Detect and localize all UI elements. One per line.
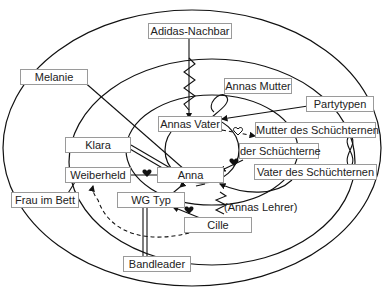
heart-icon — [184, 207, 193, 214]
diagram-lines — [0, 0, 385, 292]
node-wg-typ: WG Typ — [117, 192, 185, 208]
node-annas-lehrer: (Annas Lehrer) — [224, 200, 294, 216]
node-annas-vater: Annas Vater — [158, 116, 222, 132]
node-melanie: Melanie — [20, 69, 88, 85]
node-adidas-nachbar: Adidas-Nachbar — [148, 23, 232, 39]
node-cille: Cille — [184, 217, 252, 233]
heart-icon — [142, 170, 151, 177]
heart-icon — [229, 159, 238, 166]
node-bandleader: Bandleader — [123, 256, 191, 272]
network-diagram: Adidas-Nachbar Melanie Annas Mutter Part… — [0, 0, 385, 292]
node-klara: Klara — [65, 137, 131, 153]
outer-ring — [3, 10, 381, 286]
node-frau-im-bett: Frau im Bett — [11, 192, 79, 208]
node-der-schuechterne: der Schüchterne — [239, 143, 319, 159]
node-weiberheld: Weiberheld — [65, 167, 131, 183]
node-anna: Anna — [157, 167, 224, 183]
node-annas-mutter: Annas Mutter — [224, 78, 292, 94]
middle-ring — [69, 59, 355, 265]
node-partytypen: Partytypen — [306, 96, 374, 112]
node-mutter-des-schuechternen: Mutter des Schüchternen — [255, 122, 376, 138]
node-vater-des-schuechternen: Vater des Schüchternen — [254, 164, 377, 180]
